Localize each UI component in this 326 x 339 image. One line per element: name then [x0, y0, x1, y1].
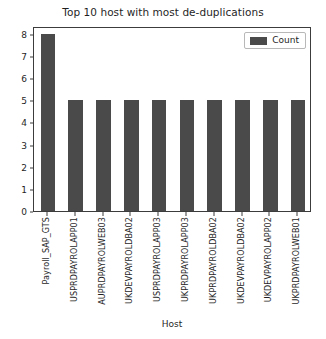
x-tick-mark — [241, 212, 242, 216]
x-tick-mark — [297, 212, 298, 216]
bars-layer — [34, 28, 310, 211]
x-tick-label: AUPRDPAYROLWEB03 — [99, 217, 107, 305]
plot-area: Count — [33, 27, 311, 212]
x-tick-mark — [102, 212, 103, 216]
y-tick-label: 1 — [21, 185, 27, 194]
bar — [180, 100, 194, 211]
chart-legend: Count — [244, 32, 306, 49]
bar — [152, 100, 166, 211]
x-tick-label: UKDEVPAYROLDBA02 — [238, 217, 246, 304]
y-tick-label: 5 — [21, 97, 27, 106]
x-tick-mark — [46, 212, 47, 216]
bar — [263, 100, 277, 211]
bar — [96, 100, 110, 211]
x-tick-label: Payroll_SAP_GTS — [43, 217, 51, 284]
bar — [68, 100, 82, 211]
x-tick-label: USPRDPAYROLAPP01 — [71, 217, 79, 302]
bar — [124, 100, 138, 211]
bar — [207, 100, 221, 211]
x-tick-label: UKPRDPAYROLDBA02 — [210, 217, 218, 304]
x-tick-label: UKDEVPAYROLDBA02 — [126, 217, 134, 304]
legend-label-count: Count — [272, 36, 299, 45]
y-tick-label: 3 — [21, 141, 27, 150]
y-tick-label: 6 — [21, 75, 27, 84]
chart-title: Top 10 host with most de-duplications — [0, 6, 326, 18]
legend-swatch-count — [250, 37, 267, 45]
y-tick-label: 0 — [21, 208, 27, 217]
y-tick-label: 2 — [21, 163, 27, 172]
y-tick-label: 4 — [21, 119, 27, 128]
x-tick-label: UKPRDPAYROLWEB01 — [293, 217, 301, 305]
x-tick-mark — [74, 212, 75, 216]
x-tick-mark — [130, 212, 131, 216]
x-tick-label: UKPRDPAYROLAPP03 — [182, 217, 190, 302]
x-tick-mark — [185, 212, 186, 216]
y-tick-label: 8 — [21, 30, 27, 39]
x-tick-mark — [269, 212, 270, 216]
x-tick-label: USPRDPAYROLAPP03 — [154, 217, 162, 302]
bar — [291, 100, 305, 211]
x-axis-title: Host — [33, 319, 311, 329]
y-axis: 012345678 — [0, 27, 33, 212]
bar — [235, 100, 249, 211]
x-axis: Payroll_SAP_GTSUSPRDPAYROLAPP01AUPRDPAYR… — [33, 212, 311, 322]
x-tick-label: UKDEVPAYROLAPP02 — [265, 217, 273, 302]
x-tick-mark — [158, 212, 159, 216]
x-tick-mark — [213, 212, 214, 216]
y-tick-label: 7 — [21, 52, 27, 61]
bar-chart-figure: Top 10 host with most de-duplications 01… — [0, 0, 326, 339]
bar — [41, 34, 55, 211]
